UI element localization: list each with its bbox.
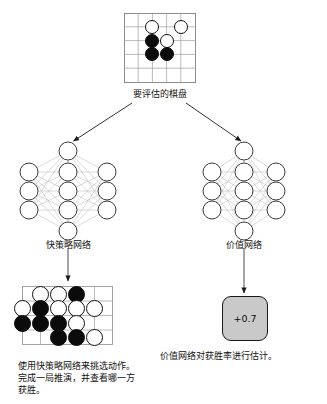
value-estimate-label: +0.7 — [233, 313, 256, 324]
stone-black — [14, 315, 31, 332]
value-estimate-caption: 价值网络对获胜率进行估计。 — [160, 350, 325, 362]
network-node — [203, 201, 221, 219]
go-evaluation-diagram: 要评估的棋盘 — [0, 0, 327, 404]
stone-black — [32, 315, 49, 332]
network-node — [203, 163, 221, 181]
policy-rollout-caption: 使用快策略网络来挑选动作。 完成一局推演，并查看哪一方 获胜。 — [18, 360, 153, 396]
value-network-label: 价值网络 — [194, 239, 294, 251]
network-node — [235, 163, 253, 181]
network-node — [235, 182, 253, 200]
network-node — [267, 163, 285, 181]
value-estimate-box: +0.7 — [222, 296, 268, 341]
network-node — [235, 201, 253, 219]
network-node — [267, 182, 285, 200]
stone-black — [50, 329, 67, 346]
network-node — [203, 182, 221, 200]
network-node — [267, 201, 285, 219]
stone-black — [68, 329, 85, 346]
stone-white — [86, 329, 103, 346]
network-node — [235, 142, 253, 160]
network-node — [235, 222, 253, 240]
rollout-board — [22, 286, 113, 345]
stone-white — [86, 300, 103, 317]
